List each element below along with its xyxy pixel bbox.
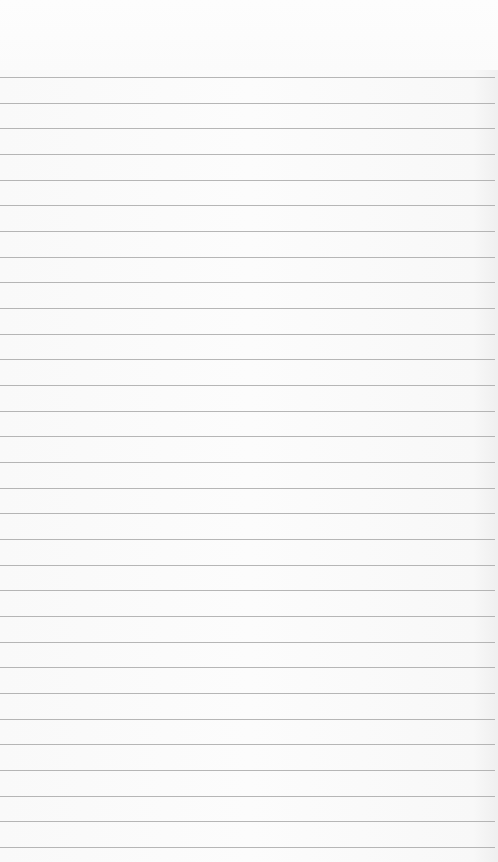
ruled-line — [0, 513, 495, 514]
ruled-line — [0, 590, 495, 591]
ruled-line — [0, 334, 495, 335]
ruled-line — [0, 103, 495, 104]
ruled-line — [0, 821, 495, 822]
ruled-line — [0, 411, 495, 412]
ruled-line — [0, 282, 495, 283]
ruled-line — [0, 77, 495, 78]
ruled-line — [0, 154, 495, 155]
ruled-line — [0, 231, 495, 232]
ruled-line — [0, 488, 495, 489]
ruled-line — [0, 770, 495, 771]
ruled-line — [0, 462, 495, 463]
ruled-line — [0, 385, 495, 386]
ruled-line — [0, 539, 495, 540]
ruled-line — [0, 565, 495, 566]
ruled-line — [0, 308, 495, 309]
ruled-line — [0, 693, 495, 694]
ruled-line — [0, 180, 495, 181]
lined-paper-page — [0, 0, 498, 862]
ruled-line — [0, 667, 495, 668]
ruled-line — [0, 744, 495, 745]
ruled-line — [0, 257, 495, 258]
ruled-line — [0, 128, 495, 129]
blank-header-margin — [0, 0, 498, 70]
ruled-line — [0, 616, 495, 617]
ruled-line — [0, 205, 495, 206]
ruled-line — [0, 642, 495, 643]
ruled-line — [0, 847, 495, 848]
ruled-line — [0, 359, 495, 360]
ruled-line — [0, 796, 495, 797]
ruled-line — [0, 719, 495, 720]
ruled-line — [0, 436, 495, 437]
